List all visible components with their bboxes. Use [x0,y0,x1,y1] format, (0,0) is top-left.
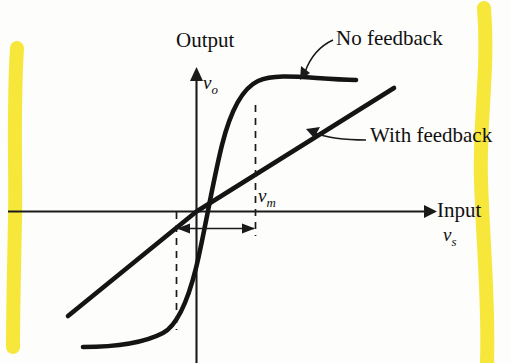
x-axis-title: Input [437,200,481,221]
range-marker-label: vm [258,186,276,210]
y-axis-arrowhead [190,67,203,81]
with-feedback-annotation-label: With feedback [370,125,492,146]
double-headed-range-arrow [177,224,255,234]
no-feedback-leader-line [305,40,333,72]
figure-container: Output vo Input vs No feedback With feed… [0,0,511,363]
x-axis-variable-subscript: s [451,234,456,249]
y-axis-variable-subscript: o [211,82,217,97]
highlighter-stripe-left [13,48,17,347]
y-axis-title: Output [176,30,234,51]
no-feedback-annotation-label: No feedback [336,28,443,49]
highlighter-stripe-right [481,8,488,362]
axes-group [8,67,437,363]
x-axis-arrowhead [424,205,437,218]
transfer-characteristic-diagram [0,0,511,363]
range-marker-subscript: m [266,195,275,210]
y-axis-variable-label: vo [203,73,218,97]
x-axis-variable-label: vs [443,225,456,249]
